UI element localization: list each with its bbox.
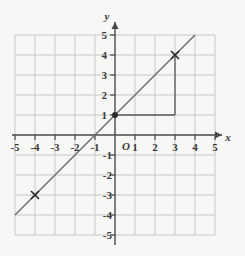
x-tick-label: -5 (10, 141, 20, 153)
x-tick-label: -3 (50, 141, 60, 153)
coordinate-plane-figure: -5 -4 -3 -2 -1 1 2 3 4 5 5 4 3 2 1 -1 -2… (0, 0, 245, 256)
y-tick-label: 2 (102, 89, 108, 101)
y-tick-label: 1 (102, 109, 108, 121)
origin-label: O (122, 140, 130, 152)
y-axis-arrow (112, 22, 119, 29)
x-tick-label: 3 (172, 141, 178, 153)
y-tick-label: -5 (103, 229, 113, 241)
x-tick-label: -2 (70, 141, 80, 153)
x-axis (12, 132, 222, 141)
y-tick-label: 3 (102, 69, 108, 81)
y-tick-label: 5 (102, 29, 108, 41)
plotted-line-series (15, 35, 195, 215)
x-axis-arrow (215, 132, 222, 139)
y-tick-label: -3 (103, 189, 113, 201)
x-tick-label: 4 (192, 141, 198, 153)
x-tick-label: 5 (212, 141, 218, 153)
marker-y-intercept-dot (112, 112, 118, 118)
x-tick-label: -4 (30, 141, 40, 153)
graph-canvas: -5 -4 -3 -2 -1 1 2 3 4 5 5 4 3 2 1 -1 -2… (0, 0, 245, 256)
y-tick-label: -2 (103, 169, 113, 181)
x-tick-label: 1 (132, 141, 138, 153)
linear-function-line (15, 35, 195, 215)
x-tick-label: -1 (90, 141, 99, 153)
x-axis-label: x (224, 131, 231, 143)
y-tick-label: -1 (103, 149, 112, 161)
y-axis-label: y (103, 10, 110, 22)
x-tick-label: 2 (152, 141, 158, 153)
y-tick-label: 4 (102, 49, 108, 61)
y-tick-label: -4 (103, 209, 113, 221)
